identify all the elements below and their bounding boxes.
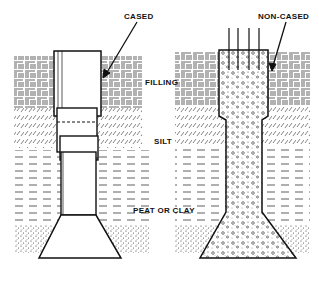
label-non-cased: NON-CASED xyxy=(258,12,309,21)
label-silt: SILT xyxy=(154,137,172,146)
label-peat-or-clay: PEAT OR CLAY xyxy=(133,206,195,215)
label-filling: FILLING xyxy=(145,78,178,87)
label-cased: CASED xyxy=(124,12,154,21)
pile-diagram: CASED NON-CASED FILLING SILT PEAT OR CLA… xyxy=(0,0,319,283)
